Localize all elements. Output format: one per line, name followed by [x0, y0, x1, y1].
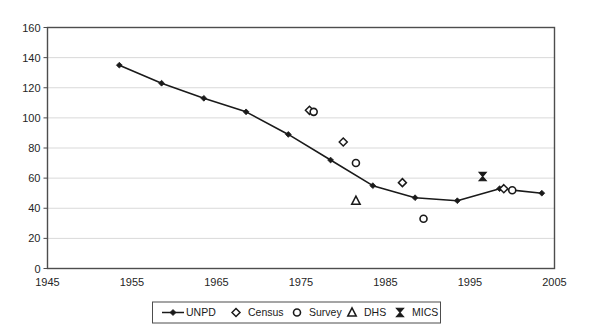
legend-marker-survey: [294, 309, 301, 316]
x-tick-label-2005: 2005: [542, 276, 566, 288]
legend-label-census: Census: [248, 306, 284, 318]
mortality-trend-chart: 160140120100806040200 194519551965197519…: [0, 0, 591, 332]
x-tick-label-1995: 1995: [458, 276, 482, 288]
x-tick-label-1955: 1955: [120, 276, 144, 288]
datapoint-survey-2: [420, 215, 427, 222]
legend-label-mics: MICS: [412, 306, 438, 318]
datapoint-survey-1: [352, 160, 359, 167]
y-tick-label-60: 60: [28, 172, 40, 184]
y-tick-label-140: 140: [22, 52, 40, 64]
datapoint-survey-0: [310, 108, 317, 115]
x-tick-label-1945: 1945: [35, 276, 59, 288]
y-tick-label-100: 100: [22, 112, 40, 124]
y-tick-label-20: 20: [28, 232, 40, 244]
x-tick-label-1965: 1965: [204, 276, 228, 288]
y-tick-label-40: 40: [28, 202, 40, 214]
datapoint-survey-3: [509, 187, 516, 194]
chart-container: 160140120100806040200 194519551965197519…: [0, 0, 591, 332]
x-tick-label-1985: 1985: [373, 276, 397, 288]
chart-legend: UNPDCensusSurveyDHSMICS: [153, 302, 441, 323]
y-tick-label-80: 80: [28, 142, 40, 154]
legend-label-unpd: UNPD: [186, 306, 216, 318]
legend-label-survey: Survey: [309, 306, 342, 318]
legend-label-dhs: DHS: [364, 306, 386, 318]
x-tick-label-1975: 1975: [289, 276, 313, 288]
y-tick-label-0: 0: [34, 263, 40, 275]
y-tick-label-120: 120: [22, 82, 40, 94]
y-tick-label-160: 160: [22, 22, 40, 34]
